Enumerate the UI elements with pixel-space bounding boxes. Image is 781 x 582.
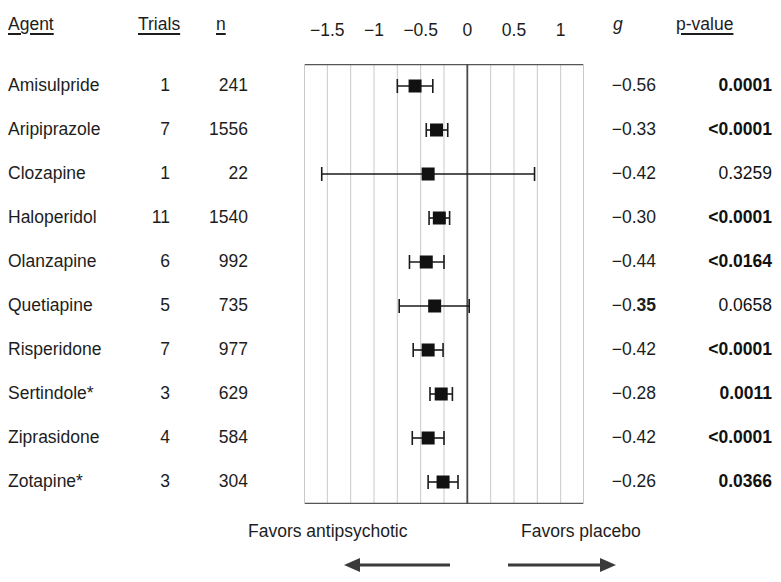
row-p-value: 0.0658 <box>664 295 772 316</box>
row-p-value: 0.0001 <box>664 75 772 96</box>
row-p-value: <0.0001 <box>664 207 772 228</box>
forest-row-marker <box>413 343 443 357</box>
row-n-value: 22 <box>176 163 248 184</box>
column-header-n: n <box>216 14 226 35</box>
left-arrow-icon <box>344 558 450 572</box>
column-header-agent: Agent <box>8 14 54 35</box>
effect-size-marker <box>409 80 422 93</box>
forest-row-marker <box>412 431 444 445</box>
row-n-value: 977 <box>176 339 248 360</box>
row-agent-label: Olanzapine <box>8 251 97 272</box>
effect-size-marker <box>422 432 435 445</box>
effect-size-marker <box>422 168 435 181</box>
row-agent-label: Amisulpride <box>8 75 99 96</box>
row-g-value: −0.28 <box>596 383 656 404</box>
forest-row-marker <box>428 475 458 489</box>
column-header-g: g <box>613 14 623 35</box>
forest-plot-canvas <box>304 64 584 504</box>
row-trials-value: 1 <box>130 75 170 96</box>
x-tick-label: −1.5 <box>310 20 345 40</box>
row-n-value: 241 <box>176 75 248 96</box>
footer-label-favors-antipsychotic: Favors antipsychotic <box>248 521 408 542</box>
row-p-value: <0.0001 <box>664 427 772 448</box>
row-trials-value: 7 <box>130 119 170 140</box>
forest-row-marker <box>429 211 450 225</box>
row-n-value: 584 <box>176 427 248 448</box>
effect-size-marker <box>437 476 450 489</box>
row-trials-value: 5 <box>130 295 170 316</box>
forest-row-marker <box>397 79 432 93</box>
row-agent-label: Quetiapine <box>8 295 93 316</box>
row-p-value: <0.0001 <box>664 339 772 360</box>
row-agent-label: Risperidone <box>8 339 101 360</box>
row-agent-label: Sertindole* <box>8 383 94 404</box>
row-agent-label: Ziprasidone <box>8 427 99 448</box>
row-p-value: <0.0164 <box>664 251 772 272</box>
footer-label-favors-placebo: Favors placebo <box>521 521 641 542</box>
row-trials-value: 7 <box>130 339 170 360</box>
row-trials-value: 4 <box>130 427 170 448</box>
row-n-value: 735 <box>176 295 248 316</box>
effect-size-marker <box>435 388 448 401</box>
row-agent-label: Aripiprazole <box>8 119 100 140</box>
effect-size-marker <box>428 300 441 313</box>
row-n-value: 1556 <box>176 119 248 140</box>
forest-plot-figure: Agent Trials n g p-value Amisulpride1241… <box>0 0 781 582</box>
row-n-value: 992 <box>176 251 248 272</box>
effect-size-marker <box>433 212 446 225</box>
forest-row-marker <box>409 255 444 269</box>
x-axis: −1.5−1−0.500.51 <box>284 10 604 68</box>
row-trials-value: 3 <box>130 471 170 492</box>
row-n-value: 304 <box>176 471 248 492</box>
forest-row-marker <box>430 387 452 401</box>
row-p-value: 0.3259 <box>664 163 772 184</box>
forest-row-marker <box>322 167 535 181</box>
direction-arrows <box>340 552 620 578</box>
forest-row-marker <box>399 299 469 313</box>
row-g-value: −0.35 <box>596 295 656 316</box>
x-tick-label: 0.5 <box>502 20 526 40</box>
x-tick-label: −1 <box>364 20 384 40</box>
row-g-value: −0.30 <box>596 207 656 228</box>
row-g-value: −0.42 <box>596 427 656 448</box>
row-trials-value: 3 <box>130 383 170 404</box>
row-p-value: 0.0011 <box>664 383 772 404</box>
row-trials-value: 1 <box>130 163 170 184</box>
forest-row-marker <box>426 123 447 137</box>
row-trials-value: 11 <box>130 207 170 228</box>
row-p-value: <0.0001 <box>664 119 772 140</box>
x-tick-label: −0.5 <box>403 20 438 40</box>
effect-size-marker <box>422 344 435 357</box>
right-arrow-icon <box>508 558 616 572</box>
row-g-value: −0.56 <box>596 75 656 96</box>
column-header-p-value: p-value <box>676 14 733 35</box>
row-trials-value: 6 <box>130 251 170 272</box>
column-header-trials: Trials <box>138 14 180 35</box>
row-agent-label: Haloperidol <box>8 207 97 228</box>
row-g-value: −0.42 <box>596 339 656 360</box>
forest-plot-svg <box>304 64 584 504</box>
row-agent-label: Clozapine <box>8 163 86 184</box>
row-g-value: −0.42 <box>596 163 656 184</box>
row-p-value: 0.0366 <box>664 471 772 492</box>
row-agent-label: Zotapine* <box>8 471 83 492</box>
row-n-value: 629 <box>176 383 248 404</box>
effect-size-marker <box>430 124 443 137</box>
row-n-value: 1540 <box>176 207 248 228</box>
row-g-value: −0.26 <box>596 471 656 492</box>
row-g-value: −0.44 <box>596 251 656 272</box>
x-tick-label: 1 <box>556 20 566 40</box>
x-tick-label: 0 <box>462 20 472 40</box>
row-g-value: −0.33 <box>596 119 656 140</box>
effect-size-marker <box>420 256 433 269</box>
